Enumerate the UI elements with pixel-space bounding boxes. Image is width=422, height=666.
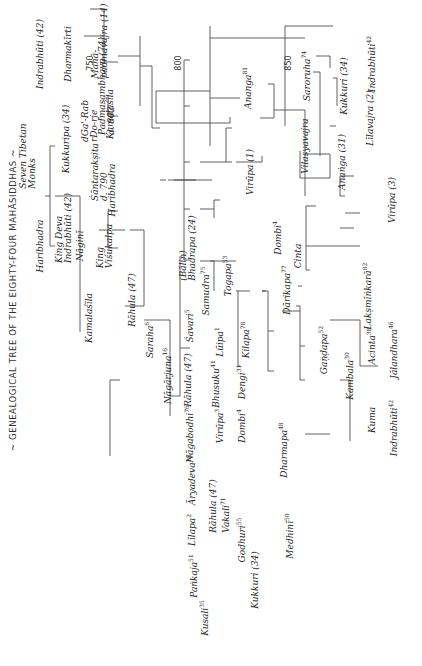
node-kamalashila: Kamalaśīla bbox=[106, 89, 115, 139]
node-nagarjuna: Nāgārjuna16 bbox=[160, 348, 173, 404]
node-virupa-1: Virūpa (1) bbox=[246, 149, 255, 195]
node-lilavajra: Līlavajra (2) bbox=[366, 90, 375, 146]
node-kilapa: Kilapa78 bbox=[238, 322, 251, 359]
node-saraha: Saraha6 bbox=[142, 322, 155, 358]
node-cinta: Cinta bbox=[294, 244, 303, 269]
date-marker-800: 800 bbox=[174, 55, 183, 70]
node-balin-bhadrapa: (Bālin)Bhadrapa (24) bbox=[179, 215, 197, 281]
node-kamalashila-label: Kamalaśīla bbox=[85, 293, 94, 343]
node-haribhadra-label: Haribhadra bbox=[36, 220, 45, 273]
node-virupa-3: Virūpa (3) bbox=[388, 177, 397, 223]
node-kukkuripa: Kukkuripa (34) bbox=[62, 105, 71, 174]
node-luipa: Lūipa1 bbox=[212, 327, 225, 357]
node-saroruha: Saroruha74 bbox=[299, 51, 312, 101]
diagram-title: ~ GENEALOGICAL TREE OF THE EIGHTY-FOUR M… bbox=[8, 149, 18, 451]
node-king-visukalpa: KingViśukalpa bbox=[96, 224, 114, 268]
node-medhini: Medhinī50 bbox=[282, 513, 295, 558]
genealogical-tree-diagram: ~ GENEALOGICAL TREE OF THE EIGHTY-FOUR M… bbox=[0, 0, 422, 666]
node-dharmapa: Dharmapa48 bbox=[276, 422, 289, 477]
node-kambala: Kambala30 bbox=[342, 352, 355, 400]
node-kusali: Kusali35 bbox=[197, 600, 210, 636]
node-dharmakirti: Dharmakīrti bbox=[64, 26, 73, 82]
node-samudra: Samudra75 bbox=[198, 267, 211, 316]
node-lakshminkara: Lakṣmīṅkarā82 bbox=[360, 263, 373, 330]
node-seven-tibetan-monks-label: Seven TibetanMonks bbox=[19, 123, 37, 188]
node-haribhadra: Haribhadra bbox=[108, 164, 117, 217]
node-anangavajra-31: Anaṅga (31) bbox=[338, 134, 347, 190]
node-dengi: Dengi31 bbox=[234, 365, 247, 400]
node-kukkuri-34: Kukkuri (34) bbox=[251, 551, 260, 609]
node-bhusuku: Bhusuku41 bbox=[208, 360, 221, 408]
node-virupa: Virūpa3 bbox=[212, 409, 225, 443]
node-aryadeva: Āryadeva18 bbox=[184, 455, 197, 505]
node-rahula-47: Rāhula (47) bbox=[184, 353, 193, 406]
node-indrabhuti-42: Indrabhūti (42) bbox=[36, 19, 45, 89]
node-indrabhuti-bottom: Indrabhūti42 bbox=[364, 36, 377, 92]
node-king-deva: King DevaIndrabhūti (42) bbox=[55, 193, 73, 263]
node-pankaja: Paṅkaja51 bbox=[186, 554, 199, 597]
node-dombi: Dombi4 bbox=[270, 221, 283, 255]
node-jalandhara: Jālandhara46 bbox=[386, 321, 399, 378]
node-gandapa: Gaṇḍapa52 bbox=[316, 326, 329, 374]
node-rahula-47-top: Rāhula (47) bbox=[128, 273, 137, 326]
node-darikapa: Dārikapa77 bbox=[279, 265, 292, 314]
node-ananga-81: Ananga81 bbox=[240, 67, 253, 109]
node-acinta: Acinta38 bbox=[364, 328, 377, 365]
node-savari: Śavari5 bbox=[182, 310, 195, 343]
node-rahula-vakali: Rāhula (47)Vakali71 bbox=[209, 479, 231, 532]
date-marker-850: 850 bbox=[284, 55, 293, 70]
node-lilapa: Līlapa2 bbox=[184, 514, 197, 546]
node-togapa: Togapa53 bbox=[220, 256, 233, 297]
node-godhuri: Godhuri55 bbox=[234, 518, 247, 563]
node-kuma: Kuma bbox=[368, 407, 377, 433]
node-dombi-top: Dombi4 bbox=[234, 409, 247, 443]
node-indrabhuti-r: Indrabhūti42 bbox=[386, 400, 399, 456]
node-nagini: Nāginī bbox=[76, 231, 85, 262]
node-kukkuri-34-bottom: Kukkuri (34) bbox=[340, 57, 349, 115]
node-vilasyavajra: Vilasyavajra bbox=[301, 118, 310, 173]
